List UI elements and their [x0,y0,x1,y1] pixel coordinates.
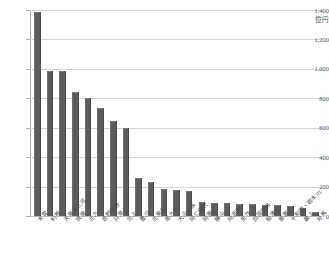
bar-cap [288,206,293,207]
bar [72,92,79,217]
y-tick-mark [26,157,30,158]
bar-cap [48,71,53,72]
bar-cap [124,128,129,129]
x-axis-labels: 木曽利根天竜東三河筑後北九州吉野熊野只見北上豊川北東北南九州大山山系阿仁田沢阿賀… [31,218,322,268]
y-tick-mark [26,39,30,40]
bar-chart: 02004006008001,0001,2001,400億円 木曽利根天竜東三河… [0,0,329,268]
bar-cap [60,71,65,72]
bar-cap [73,92,78,93]
bar-cap [187,191,192,192]
y-tick-mark [26,187,30,188]
y-tick-mark [26,216,30,217]
bar-cap [162,189,167,190]
y-tick-mark [26,128,30,129]
bar [34,12,41,217]
bar-cap [136,178,141,179]
bar-cap [174,190,179,191]
bar-cap [250,204,255,205]
bars-layer [31,10,322,217]
y-tick-mark [26,10,30,11]
bar [97,108,104,217]
y-tick-mark [26,69,30,70]
bar [59,71,66,217]
bar [135,178,142,217]
bar-cap [225,203,230,204]
bar-cap [98,108,103,109]
bar-cap [86,98,91,99]
y-tick-mark [26,98,30,99]
bar-cap [212,203,217,204]
bar [123,128,130,217]
bar-cap [111,121,116,122]
bar-cap [35,12,40,13]
bar [47,71,54,217]
bar-cap [149,182,154,183]
